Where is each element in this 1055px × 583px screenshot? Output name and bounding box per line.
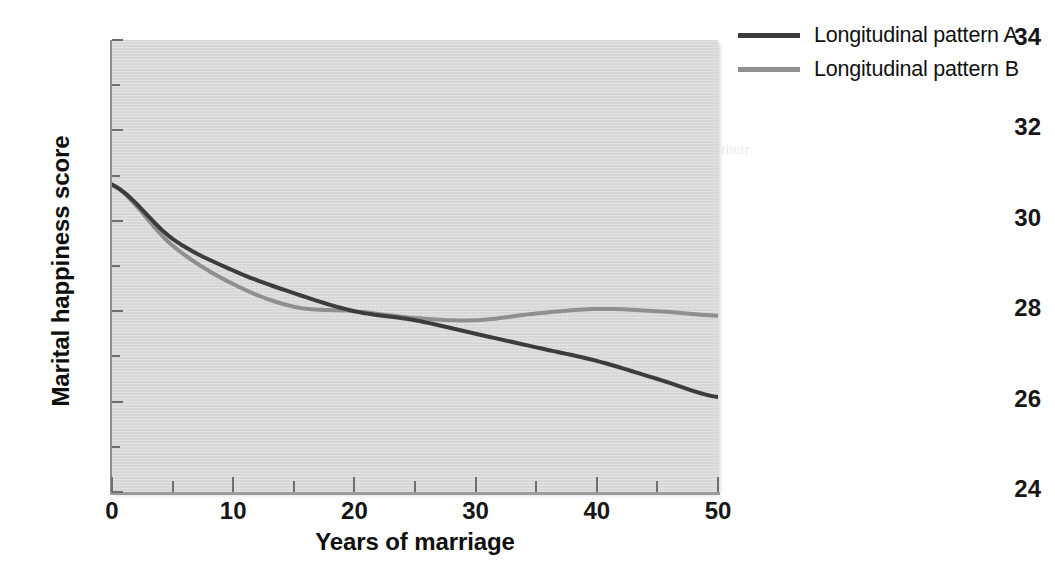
y-tick-label-32: 32 (955, 113, 1055, 141)
y-tick-label-24: 24 (955, 475, 1055, 503)
line-chart-svg (112, 40, 718, 492)
x-tick-major-40 (596, 477, 598, 492)
x-tick-label-0: 0 (72, 497, 152, 525)
y-tick-major-34 (112, 39, 123, 41)
x-tick-major-20 (353, 477, 355, 492)
y-tick-major-24 (112, 491, 123, 493)
legend-item-pattern-b: Longitudinal pattern B (738, 52, 1048, 86)
x-tick-minor-25 (414, 481, 416, 492)
y-tick-major-30 (112, 220, 123, 222)
x-tick-label-40: 40 (557, 497, 637, 525)
y-axis-title: Marital happiness score (47, 61, 75, 481)
x-tick-major-30 (475, 477, 477, 492)
y-tick-major-26 (112, 401, 123, 403)
legend-label-pattern-b: Longitudinal pattern B (814, 57, 1019, 82)
x-tick-minor-15 (293, 481, 295, 492)
x-tick-label-30: 30 (436, 497, 516, 525)
x-tick-label-10: 10 (193, 497, 273, 525)
chart-legend: Longitudinal pattern A Longitudinal patt… (738, 18, 1048, 86)
x-tick-major-10 (232, 477, 234, 492)
y-tick-minor-25 (112, 446, 120, 448)
y-tick-minor-33 (112, 84, 120, 86)
plot-area (112, 40, 718, 492)
y-tick-minor-27 (112, 355, 120, 357)
figure-container: their couples live. Many of these issues… (0, 0, 1055, 583)
x-tick-label-50: 50 (678, 497, 758, 525)
series-line-longitudinal-pattern-a (112, 185, 718, 397)
legend-label-pattern-a: Longitudinal pattern A (814, 23, 1018, 48)
y-tick-major-32 (112, 129, 123, 131)
y-tick-minor-31 (112, 175, 120, 177)
y-tick-label-26: 26 (955, 385, 1055, 413)
x-tick-minor-45 (656, 481, 658, 492)
x-tick-major-0 (111, 477, 113, 492)
y-tick-minor-29 (112, 265, 120, 267)
legend-item-pattern-a: Longitudinal pattern A (738, 18, 1048, 52)
y-tick-major-28 (112, 310, 123, 312)
x-tick-minor-5 (172, 481, 174, 492)
y-tick-label-30: 30 (955, 204, 1055, 232)
x-axis-title: Years of marriage (112, 528, 718, 556)
x-tick-minor-35 (535, 481, 537, 492)
x-axis-line (110, 492, 720, 495)
x-tick-label-20: 20 (314, 497, 394, 525)
legend-swatch-pattern-b (738, 67, 800, 72)
series-line-longitudinal-pattern-b (112, 185, 718, 321)
y-tick-label-28: 28 (955, 294, 1055, 322)
legend-swatch-pattern-a (738, 33, 800, 38)
x-tick-major-50 (717, 477, 719, 492)
